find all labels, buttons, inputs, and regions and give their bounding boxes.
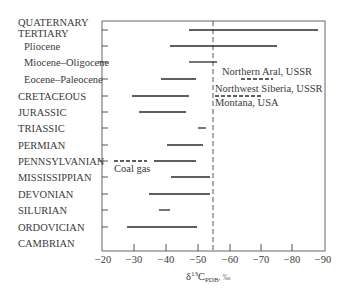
x-tick-label: −40 [158,254,174,265]
label-permian: PERMIAN [18,140,66,151]
period-labels: QUATERNARY TERTIARY Pliocene Miocene–Oli… [18,17,109,249]
annotation-nw-siberia: Northwest Siberia, USSR [215,83,323,94]
range-chart: −20 −30 −40 −50 −60 −70 −80 −90 δ13CPDB,… [0,0,350,290]
annotation-coal-gas: Coal gas [114,163,150,174]
label-miocene-oligocene: Miocene–Oligocene [24,57,109,68]
range-bars [127,30,318,227]
label-triassic: TRIASSIC [18,123,65,134]
x-tick-label: −20 [95,254,111,265]
annotation-montana: Montana, USA [215,97,279,108]
label-silurian: SILURIAN [18,205,67,216]
x-tick-label: −90 [315,254,331,265]
label-pennsylvanian: PENNSYLVANIAN [18,156,105,167]
x-tick-label: −50 [190,254,206,265]
x-tick-label: −30 [126,254,142,265]
label-cretaceous: CRETACEOUS [18,91,86,102]
label-jurassic: JURASSIC [18,107,66,118]
annotations: Northern Aral, USSR Northwest Siberia, U… [114,66,323,174]
label-pliocene: Pliocene [24,41,60,52]
x-tick-label: −70 [253,254,269,265]
x-tick-label: −60 [222,254,238,265]
annotation-northern-aral: Northern Aral, USSR [222,66,312,77]
label-cambrian: CAMBRIAN [18,238,75,249]
label-tertiary: TERTIARY [18,28,69,39]
x-tick-labels: −20 −30 −40 −50 −60 −70 −80 −90 [95,254,331,265]
label-quaternary: QUATERNARY [18,17,89,28]
x-axis-label: δ13CPDB, ‰ [186,270,231,284]
x-tick-label: −80 [284,254,300,265]
label-devonian: DEVONIAN [18,189,74,200]
label-eocene-paleocene: Eocene–Paleocene [24,74,103,85]
label-ordovician: ORDOVICIAN [18,222,85,233]
label-mississippian: MISSISSIPPIAN [18,172,92,183]
